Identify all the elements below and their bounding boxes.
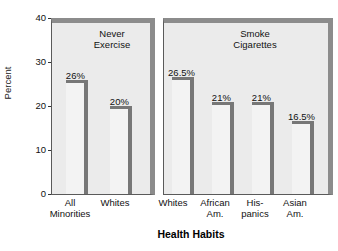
plot-area-smoke-cigarettes: 26.5% 21% 21% 16.5%	[164, 23, 328, 194]
bar-whites-exercise[interactable]: 20%	[110, 106, 132, 194]
plot-area-never-exercise: 26% 20%	[52, 23, 150, 194]
y-axis-title: Percent	[3, 53, 13, 113]
panel-smoke-cigarettes: Smoke Cigarettes 26.5% 21% 21% 16.5%	[163, 18, 333, 195]
y-tick-label: 40	[35, 13, 46, 23]
bar-value-label: 21%	[252, 93, 271, 103]
bar-asian-am-smoke[interactable]: 16.5%	[292, 121, 314, 194]
bar-african-am-smoke[interactable]: 21%	[212, 102, 234, 194]
panel-never-exercise: Never Exercise 26% 20%	[51, 18, 155, 195]
bar-value-label: 26%	[66, 71, 85, 81]
bar-value-label: 20%	[110, 97, 129, 107]
x-label-asian-am: Asian Am.	[272, 198, 318, 219]
x-axis-title: Health Habits	[0, 228, 338, 240]
bar-all-minorities[interactable]: 26%	[66, 80, 88, 194]
bar-value-label: 21%	[212, 93, 231, 103]
y-tick-label: 10	[35, 145, 46, 155]
bar-value-label: 16.5%	[288, 112, 315, 122]
y-tick-label: 30	[35, 57, 46, 67]
y-tick-label: 20	[35, 101, 46, 111]
bar-hispanics-smoke[interactable]: 21%	[252, 102, 274, 194]
x-label-whites-exercise: Whites	[88, 198, 142, 209]
bar-whites-smoke[interactable]: 26.5%	[172, 77, 194, 194]
bar-chart-figure: 40 30 20 10 0 Percent Never Exercise 26%…	[0, 0, 338, 251]
bar-value-label: 26.5%	[168, 68, 195, 78]
